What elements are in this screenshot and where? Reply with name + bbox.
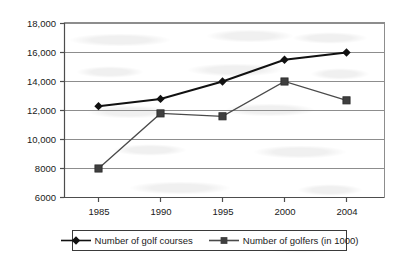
y-axis-ticks — [60, 24, 64, 198]
plot-area — [0, 0, 417, 259]
data-point — [157, 110, 164, 117]
data-point — [218, 77, 226, 85]
ytick-label-12000: 12,000 — [0, 106, 56, 116]
ytick-label-14000: 14,000 — [0, 77, 56, 87]
xtick-label-1985: 1985 — [74, 207, 124, 217]
data-point — [280, 56, 288, 64]
legend-label-golf-courses: Number of golf courses — [95, 235, 193, 246]
xtick-label-1990: 1990 — [136, 207, 186, 217]
series-diamond — [94, 48, 350, 110]
ytick-label-18000: 18,000 — [0, 19, 56, 29]
diamond-marker-icon — [61, 235, 91, 246]
xtick-label-2004: 2004 — [322, 207, 372, 217]
data-point — [95, 165, 102, 172]
xtick-label-2000: 2000 — [260, 207, 310, 217]
legend-label-golfers: Number of golfers (in 1000) — [243, 235, 359, 246]
line-chart: 18,000 16,000 14,000 12,000 10,000 8000 … — [0, 0, 417, 259]
ytick-label-8000: 8000 — [0, 164, 56, 174]
series-square — [95, 78, 350, 172]
ytick-label-16000: 16,000 — [0, 48, 56, 58]
square-marker-icon — [209, 235, 239, 246]
gridlines — [64, 24, 385, 169]
legend-entry-golfers: Number of golfers (in 1000) — [209, 235, 359, 246]
data-point — [342, 48, 350, 56]
data-point — [219, 113, 226, 120]
legend-entry-golf-courses: Number of golf courses — [61, 235, 193, 246]
data-point — [156, 95, 164, 103]
data-point — [281, 78, 288, 85]
data-point — [94, 102, 102, 110]
chart-legend: Number of golf courses Number of golfers… — [72, 230, 347, 251]
data-point — [343, 97, 350, 104]
ytick-label-6000: 6000 — [0, 193, 56, 203]
x-axis-ticks — [99, 198, 347, 203]
ytick-label-10000: 10,000 — [0, 135, 56, 145]
series-line — [99, 82, 347, 169]
xtick-label-1995: 1995 — [198, 207, 248, 217]
